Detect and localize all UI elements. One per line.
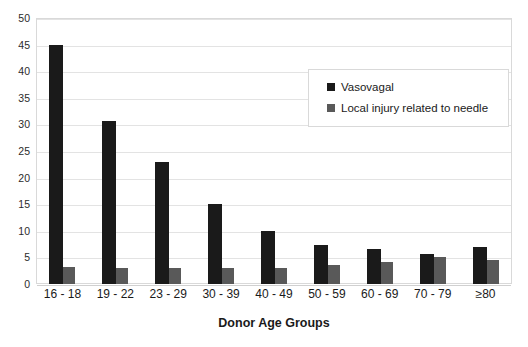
bar-0-1 [102, 121, 116, 284]
y-tick-label: 30 [18, 119, 30, 130]
bar-chart-figure: 05101520253035404550 16 - 1819 - 2223 - … [0, 0, 528, 347]
x-tick-label: 23 - 29 [150, 288, 187, 301]
bar-group [353, 18, 406, 284]
x-tick-label: 19 - 22 [97, 288, 134, 301]
bar-1-5 [328, 265, 340, 284]
x-tick-label: 16 - 18 [44, 288, 81, 301]
x-tick-label: 60 - 69 [361, 288, 398, 301]
gridline-0 [37, 285, 511, 286]
legend-item: Vasovagal [309, 77, 508, 98]
bar-1-0 [63, 267, 75, 284]
bar-0-8 [473, 247, 487, 284]
legend-item: Local injury related to needle [309, 98, 508, 119]
y-tick-label: 5 [24, 252, 30, 263]
bar-0-2 [155, 162, 169, 284]
bar-group [36, 18, 89, 284]
bar-1-1 [116, 268, 128, 284]
legend-label: Local injury related to needle [341, 102, 488, 115]
bar-group [406, 18, 459, 284]
bar-0-7 [420, 254, 434, 284]
y-tick-label: 35 [18, 93, 30, 104]
x-axis: 16 - 1819 - 2223 - 2930 - 3940 - 4950 - … [36, 288, 512, 310]
y-tick-label: 10 [18, 226, 30, 237]
legend-swatch-icon [327, 83, 335, 91]
y-tick-label: 15 [18, 199, 30, 210]
y-tick-label: 25 [18, 146, 30, 157]
bar-0-5 [314, 245, 328, 284]
x-tick-label: 50 - 59 [308, 288, 345, 301]
legend-swatch-icon [327, 104, 335, 112]
bar-0-0 [49, 45, 63, 284]
bar-group [195, 18, 248, 284]
chart-legend: VasovagalLocal injury related to needle [308, 69, 509, 127]
bar-1-6 [381, 262, 393, 284]
bar-1-8 [487, 260, 499, 284]
bar-group [142, 18, 195, 284]
bar-group [300, 18, 353, 284]
bar-0-6 [367, 249, 381, 284]
y-tick-label: 0 [24, 279, 30, 290]
x-tick-label: 40 - 49 [255, 288, 292, 301]
bar-group [89, 18, 142, 284]
bar-0-4 [261, 231, 275, 284]
y-axis: 05101520253035404550 [0, 18, 34, 284]
bar-1-3 [222, 268, 234, 284]
legend-label: Vasovagal [341, 81, 394, 94]
bars-layer [36, 18, 512, 284]
x-tick-label: ≥80 [476, 288, 496, 301]
y-tick-label: 45 [18, 39, 30, 50]
bar-group [248, 18, 301, 284]
y-tick-label: 40 [18, 66, 30, 77]
bar-0-3 [208, 204, 222, 284]
x-tick-label: 70 - 79 [414, 288, 451, 301]
y-tick-label: 50 [18, 13, 30, 24]
x-axis-title: Donor Age Groups [36, 316, 512, 330]
bar-1-4 [275, 268, 287, 284]
bar-group [459, 18, 512, 284]
bar-1-7 [434, 257, 446, 284]
bar-1-2 [169, 268, 181, 284]
y-tick-label: 20 [18, 172, 30, 183]
x-tick-label: 30 - 39 [202, 288, 239, 301]
